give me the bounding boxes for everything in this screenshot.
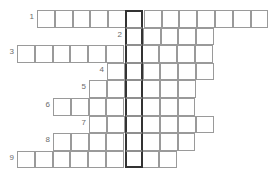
crossword-cell[interactable] xyxy=(89,116,107,134)
crossword-cell-highlighted[interactable] xyxy=(125,45,143,63)
crossword-cell[interactable] xyxy=(106,133,124,151)
crossword-cell[interactable] xyxy=(71,98,89,116)
crossword-cell[interactable] xyxy=(71,133,89,151)
crossword-cell[interactable] xyxy=(89,98,107,116)
crossword-cell[interactable] xyxy=(106,98,124,116)
crossword-cell[interactable] xyxy=(142,133,160,151)
crossword-cell[interactable] xyxy=(178,98,196,116)
crossword-cell[interactable] xyxy=(196,28,214,46)
crossword-cell[interactable] xyxy=(143,63,161,81)
crossword-cell[interactable] xyxy=(55,10,73,28)
crossword-cell-highlighted[interactable] xyxy=(125,151,143,169)
crossword-cell[interactable] xyxy=(17,45,35,63)
crossword-cell[interactable] xyxy=(159,45,177,63)
clue-number: 3 xyxy=(2,48,14,56)
crossword-cell[interactable] xyxy=(108,10,126,28)
clue-number: 1 xyxy=(22,13,34,21)
crossword-cell[interactable] xyxy=(143,28,161,46)
clue-number: 8 xyxy=(38,136,50,144)
crossword-cell[interactable] xyxy=(178,116,196,134)
crossword-cell[interactable] xyxy=(90,10,108,28)
crossword-cell[interactable] xyxy=(88,151,106,169)
crossword-cell[interactable] xyxy=(160,116,178,134)
crossword-cell-highlighted[interactable] xyxy=(125,80,143,98)
crossword-cell[interactable] xyxy=(106,151,124,169)
crossword-cell[interactable] xyxy=(37,10,55,28)
crossword-cell[interactable] xyxy=(70,151,88,169)
crossword-cell[interactable] xyxy=(53,45,71,63)
crossword-cell[interactable] xyxy=(178,80,196,98)
crossword-cell[interactable] xyxy=(142,116,160,134)
crossword-cell[interactable] xyxy=(178,63,196,81)
crossword-cell[interactable] xyxy=(159,151,177,169)
crossword-cell[interactable] xyxy=(178,133,196,151)
crossword-cell[interactable] xyxy=(106,45,124,63)
clue-number: 2 xyxy=(110,31,122,39)
crossword-cell-highlighted[interactable] xyxy=(125,63,143,81)
crossword-cell[interactable] xyxy=(70,45,88,63)
crossword-cell-highlighted[interactable] xyxy=(125,116,143,134)
crossword-cell[interactable] xyxy=(107,80,125,98)
crossword-cell[interactable] xyxy=(251,10,269,28)
crossword-cell-highlighted[interactable] xyxy=(125,98,143,116)
crossword-cell[interactable] xyxy=(53,133,71,151)
crossword-cell[interactable] xyxy=(144,10,162,28)
crossword-cell[interactable] xyxy=(53,151,71,169)
crossword-cell[interactable] xyxy=(35,151,53,169)
crossword-cell[interactable] xyxy=(179,10,197,28)
crossword-cell[interactable] xyxy=(196,116,214,134)
crossword-cell[interactable] xyxy=(233,10,251,28)
crossword-cell[interactable] xyxy=(178,28,196,46)
clue-number: 5 xyxy=(74,83,86,91)
crossword-cell[interactable] xyxy=(107,63,125,81)
crossword-cell[interactable] xyxy=(107,116,125,134)
crossword-cell[interactable] xyxy=(195,45,213,63)
crossword-cell[interactable] xyxy=(215,10,233,28)
crossword-cell[interactable] xyxy=(160,133,178,151)
crossword-cell[interactable] xyxy=(161,28,179,46)
crossword-cell[interactable] xyxy=(142,45,160,63)
crossword-cell[interactable] xyxy=(88,45,106,63)
crossword-cell[interactable] xyxy=(35,45,53,63)
crossword-cell[interactable] xyxy=(160,98,178,116)
clue-number: 9 xyxy=(2,154,14,162)
crossword-cell[interactable] xyxy=(160,80,178,98)
crossword-cell[interactable] xyxy=(160,63,178,81)
crossword-cell-highlighted[interactable] xyxy=(125,133,143,151)
crossword-cell[interactable] xyxy=(73,10,91,28)
clue-number: 7 xyxy=(74,119,86,127)
crossword-puzzle: 123456789 xyxy=(0,0,280,185)
crossword-cell[interactable] xyxy=(197,10,215,28)
crossword-cell[interactable] xyxy=(89,80,107,98)
crossword-cell-highlighted[interactable] xyxy=(125,10,143,28)
crossword-cell[interactable] xyxy=(142,80,160,98)
crossword-cell[interactable] xyxy=(142,98,160,116)
clue-number: 4 xyxy=(92,66,104,74)
crossword-cell[interactable] xyxy=(196,63,214,81)
crossword-cell[interactable] xyxy=(162,10,180,28)
crossword-cell[interactable] xyxy=(89,133,107,151)
crossword-cell[interactable] xyxy=(142,151,160,169)
crossword-cell[interactable] xyxy=(17,151,35,169)
crossword-cell[interactable] xyxy=(53,98,71,116)
crossword-cell-highlighted[interactable] xyxy=(125,28,143,46)
clue-number: 6 xyxy=(38,101,50,109)
crossword-cell[interactable] xyxy=(177,45,195,63)
